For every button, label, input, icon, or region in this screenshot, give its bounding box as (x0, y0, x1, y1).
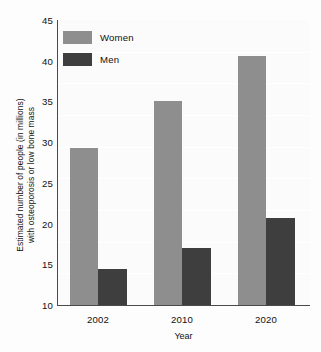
x-tick-label: 2020 (255, 314, 277, 325)
y-tick-label: 10 (42, 300, 53, 311)
x-axis-title: Year (57, 331, 310, 341)
background-band (58, 83, 310, 84)
x-tick-label: 2002 (87, 314, 109, 325)
legend-swatch-women-icon (63, 31, 92, 44)
y-axis-title: Estimated number of people (in millions)… (11, 50, 41, 300)
y-tick-label: 25 (42, 177, 53, 188)
bar-chart: Estimated number of people (in millions)… (0, 0, 321, 352)
y-axis-title-line-1: Estimated number of people (in millions) (15, 98, 26, 251)
legend-swatch-men-icon (63, 53, 92, 66)
y-axis-title-line-2: with osteoporosis or low bone mass (26, 107, 37, 243)
legend-item-men: Men (63, 53, 134, 66)
bar-women-2020 (238, 56, 267, 305)
legend-label-men: Men (100, 54, 119, 65)
y-tick-label: 15 (42, 259, 53, 270)
legend-item-women: Women (63, 31, 134, 44)
bar-men-2020 (266, 218, 295, 305)
bar-men-2002 (98, 269, 127, 305)
background-band (58, 115, 310, 116)
bar-women-2010 (154, 101, 183, 305)
y-tick-label: 40 (42, 55, 53, 66)
y-tick-label: 30 (42, 137, 53, 148)
y-tick-label: 35 (42, 96, 53, 107)
legend: Women Men (63, 31, 134, 66)
y-tick-label: 20 (42, 218, 53, 229)
bar-men-2010 (182, 248, 211, 305)
x-tick-label: 2010 (171, 314, 193, 325)
y-tick-label: 45 (42, 15, 53, 26)
bar-women-2002 (70, 148, 99, 305)
legend-label-women: Women (100, 32, 134, 43)
